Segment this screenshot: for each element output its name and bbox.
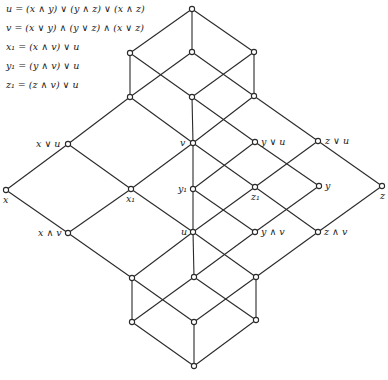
- node-i: [253, 274, 258, 279]
- lattice-diagram: x ∨ uvy ∨ uz ∨ uxx₁y₁z₁yzx ∧ vuy ∧ vz ∧ …: [0, 0, 388, 380]
- node-label-y: y: [324, 180, 331, 191]
- node-label-zu: z ∨ u: [324, 135, 349, 146]
- edge-f-v: [193, 96, 254, 143]
- edge-d-xu: [68, 97, 130, 144]
- node-j: [129, 319, 134, 324]
- node-zv: [315, 229, 320, 234]
- node-z: [379, 183, 384, 188]
- node-x: [3, 187, 8, 192]
- node-zu: [315, 138, 320, 143]
- node-v: [190, 140, 195, 145]
- node-x1: [128, 186, 133, 191]
- edge-u-g: [132, 232, 193, 278]
- node-label-yv: y ∧ v: [260, 226, 285, 237]
- node-k: [191, 319, 196, 324]
- edge-j-bottom: [132, 322, 194, 366]
- node-l: [253, 317, 258, 322]
- edge-f-zu: [254, 96, 318, 141]
- edge-top-c: [192, 9, 254, 52]
- edge-e-v: [192, 97, 193, 143]
- node-d: [127, 94, 132, 99]
- node-label-x1: x₁: [126, 193, 135, 204]
- edge-zv-i: [256, 232, 318, 277]
- node-g: [129, 275, 134, 280]
- edge-xv-g: [68, 233, 132, 278]
- edge-x1-xv: [68, 189, 131, 233]
- edge-top-a: [130, 9, 192, 53]
- node-yv: [252, 229, 257, 234]
- node-h: [191, 274, 196, 279]
- edge-xu-x: [6, 144, 68, 190]
- node-label-yu: y ∨ u: [260, 136, 285, 147]
- edge-l-bottom: [194, 320, 256, 366]
- node-z1: [252, 184, 257, 189]
- node-label-v: v: [180, 137, 186, 148]
- edge-xu-x1: [68, 144, 131, 189]
- node-e: [189, 94, 194, 99]
- node-label-x: x: [3, 194, 9, 205]
- node-bottom: [191, 363, 196, 368]
- node-label-u: u: [181, 226, 187, 237]
- node-yu: [252, 139, 257, 144]
- node-f: [251, 93, 256, 98]
- node-y: [316, 183, 321, 188]
- node-c: [251, 49, 256, 54]
- node-label-y1: y₁: [177, 183, 187, 194]
- node-label-xv: x ∧ v: [38, 227, 62, 238]
- edge-u-h: [193, 232, 194, 277]
- node-u: [190, 229, 195, 234]
- node-top: [189, 6, 194, 11]
- node-xv: [65, 230, 70, 235]
- node-a: [127, 50, 132, 55]
- node-y1: [190, 186, 195, 191]
- node-label-xu: x ∨ u: [36, 138, 60, 149]
- node-label-z1: z₁: [250, 191, 260, 202]
- node-label-z: z: [379, 190, 386, 201]
- node-b: [189, 49, 194, 54]
- node-xu: [65, 141, 70, 146]
- node-label-zv: z ∧ v: [323, 226, 348, 237]
